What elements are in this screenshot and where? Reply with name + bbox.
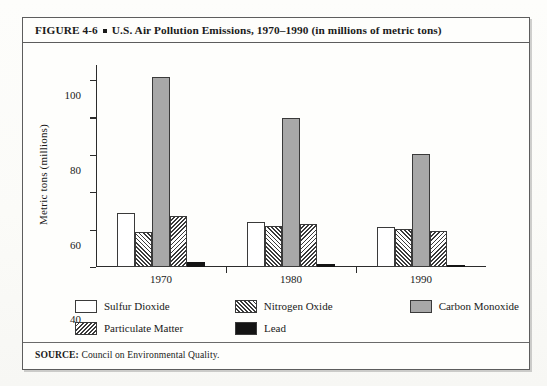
legend-label-carbon-monoxide: Carbon Monoxide: [439, 300, 519, 312]
y-axis-tick-label: 80: [70, 164, 81, 176]
legend-label-lead: Lead: [264, 322, 286, 334]
x-axis-tick-label-1990: 1990: [410, 273, 432, 285]
figure-title: FIGURE 4-6U.S. Air Pollution Emissions, …: [35, 24, 442, 36]
chart-legend: Sulfur Dioxide Nitrogen Oxide Carbon Mon…: [23, 294, 529, 344]
legend-swatch-nitrogen-oxide: [235, 300, 257, 313]
bar-sulfur-dioxide-1980: [247, 222, 265, 267]
x-axis-tick-label-1980: 1980: [280, 273, 302, 285]
source-text: Council on Environmental Quality.: [79, 349, 220, 360]
x-axis-tick: [226, 267, 227, 273]
legend-swatch-particulate-matter: [75, 322, 97, 335]
bar-carbon-monoxide-1970: [152, 77, 170, 267]
plot-axes: 020406080100197019801990: [96, 65, 486, 267]
bar-lead-1970: [187, 262, 205, 267]
legend-item-lead: Lead: [235, 322, 410, 335]
bar-nitrogen-oxide-1990: [395, 229, 413, 267]
bar-particulate-matter-1970: [170, 216, 188, 267]
figure-number: FIGURE 4-6: [35, 24, 98, 36]
legend-swatch-carbon-monoxide: [410, 300, 432, 313]
source-note: SOURCE: Council on Environmental Quality…: [35, 349, 219, 360]
y-axis-tick-label: 100: [65, 89, 82, 101]
x-axis-tick: [356, 267, 357, 273]
y-axis-tick: 80: [90, 117, 96, 118]
bar-sulfur-dioxide-1970: [117, 213, 135, 267]
legend-label-sulfur-dioxide: Sulfur Dioxide: [104, 300, 170, 312]
legend-swatch-sulfur-dioxide: [75, 300, 97, 313]
legend-item-particulate-matter: Particulate Matter: [75, 322, 235, 335]
source-divider: [23, 342, 529, 343]
legend-label-particulate-matter: Particulate Matter: [104, 322, 183, 334]
bar-particulate-matter-1990: [430, 231, 448, 267]
bar-carbon-monoxide-1990: [412, 154, 430, 267]
figure-title-bar: FIGURE 4-6U.S. Air Pollution Emissions, …: [23, 18, 529, 43]
bar-sulfur-dioxide-1990: [377, 227, 395, 267]
y-axis-tick: 100: [90, 80, 96, 81]
bar-particulate-matter-1980: [300, 224, 318, 267]
legend-row-2: Particulate Matter Lead: [75, 318, 519, 338]
bar-lead-1990: [447, 265, 465, 267]
bar-nitrogen-oxide-1970: [135, 232, 153, 267]
bar-carbon-monoxide-1980: [282, 118, 300, 267]
y-axis-tick: 0: [90, 267, 96, 268]
legend-item-nitrogen-oxide: Nitrogen Oxide: [235, 300, 410, 313]
y-axis-tick: 60: [90, 155, 96, 156]
square-bullet-icon: [103, 29, 107, 33]
bar-lead-1980: [317, 264, 335, 267]
y-axis-tick: 40: [90, 192, 96, 193]
legend-item-carbon-monoxide: Carbon Monoxide: [410, 300, 519, 313]
figure-title-text: U.S. Air Pollution Emissions, 1970–1990 …: [112, 24, 442, 36]
y-axis-line: [96, 65, 97, 267]
legend-label-nitrogen-oxide: Nitrogen Oxide: [264, 300, 333, 312]
x-axis-tick-label-1970: 1970: [150, 273, 172, 285]
y-axis-tick: 20: [90, 230, 96, 231]
y-axis-label: Metric tons (millions): [37, 105, 53, 245]
bar-nitrogen-oxide-1980: [265, 226, 283, 267]
legend-item-sulfur-dioxide: Sulfur Dioxide: [75, 300, 235, 313]
source-prefix: SOURCE:: [35, 349, 79, 360]
legend-row-1: Sulfur Dioxide Nitrogen Oxide Carbon Mon…: [75, 296, 519, 316]
y-axis-tick-label: 60: [70, 239, 81, 251]
legend-swatch-lead: [235, 322, 257, 335]
figure-container: FIGURE 4-6U.S. Air Pollution Emissions, …: [22, 17, 530, 370]
chart-area: Metric tons (millions) 02040608010019701…: [23, 43, 529, 293]
